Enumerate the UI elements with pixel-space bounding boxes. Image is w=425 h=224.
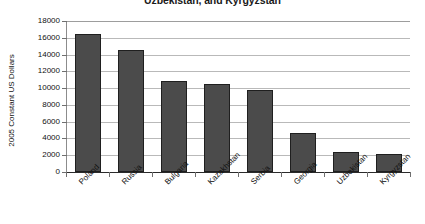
x-tick-mark [238,172,239,177]
y-tick-label: 18000 [0,17,60,25]
x-tick-mark [324,172,325,177]
y-tick-label: 8000 [0,101,60,109]
y-tick-label: 14000 [0,51,60,59]
x-tick-mark [281,172,282,177]
x-tick-mark [109,172,110,177]
bar [118,50,144,172]
y-tick-label: 0 [0,168,60,176]
x-tick-mark [410,172,411,177]
x-tick-mark [367,172,368,177]
bar-series [66,21,410,172]
plot-area: 1800016000140001200010000800060004000200… [66,21,410,172]
x-tick-mark [152,172,153,177]
bar [247,90,273,172]
y-tick-label: 10000 [0,84,60,92]
y-tick-label: 12000 [0,67,60,75]
x-tick-mark [66,172,67,177]
x-tick-mark [195,172,196,177]
y-tick-label: 16000 [0,34,60,42]
chart-title: Uzbekistan, and Kyrgyzstan [0,0,425,6]
y-tick-label: 6000 [0,118,60,126]
bar-chart: Uzbekistan, and Kyrgyzstan 2005 Constant… [0,0,425,224]
y-tick-label: 4000 [0,134,60,142]
bar [75,34,101,172]
y-tick-label: 2000 [0,151,60,159]
bar [161,81,187,172]
